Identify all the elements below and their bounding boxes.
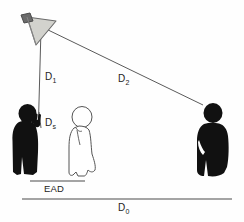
middle-person-head	[72, 107, 92, 128]
label-ds-subscript: s	[52, 123, 56, 130]
left-person-body	[12, 121, 38, 176]
right-person-head	[204, 103, 223, 123]
label-d0: D0	[118, 203, 130, 215]
loudspeaker-horn-icon	[21, 13, 56, 45]
diagram-canvas	[0, 0, 244, 222]
label-d1: D1	[45, 72, 57, 84]
label-ead: EAD	[44, 184, 64, 194]
label-d2: D2	[118, 74, 130, 86]
label-d2-subscript: 2	[125, 79, 129, 86]
person-listener-silhouette	[197, 103, 229, 176]
label-d1-subscript: 1	[52, 77, 56, 84]
label-d0-subscript: 0	[125, 208, 129, 215]
middle-person-body	[69, 126, 95, 176]
person-outline-kneeling-silhouette	[69, 107, 95, 177]
label-ds: Ds	[45, 118, 56, 130]
person-with-microphone-silhouette	[12, 104, 41, 175]
acoustic-distance-diagram: D1 D2 Ds EAD D0	[0, 0, 244, 222]
distance-line-d2	[44, 28, 203, 105]
distance-line-d1	[39, 29, 42, 120]
